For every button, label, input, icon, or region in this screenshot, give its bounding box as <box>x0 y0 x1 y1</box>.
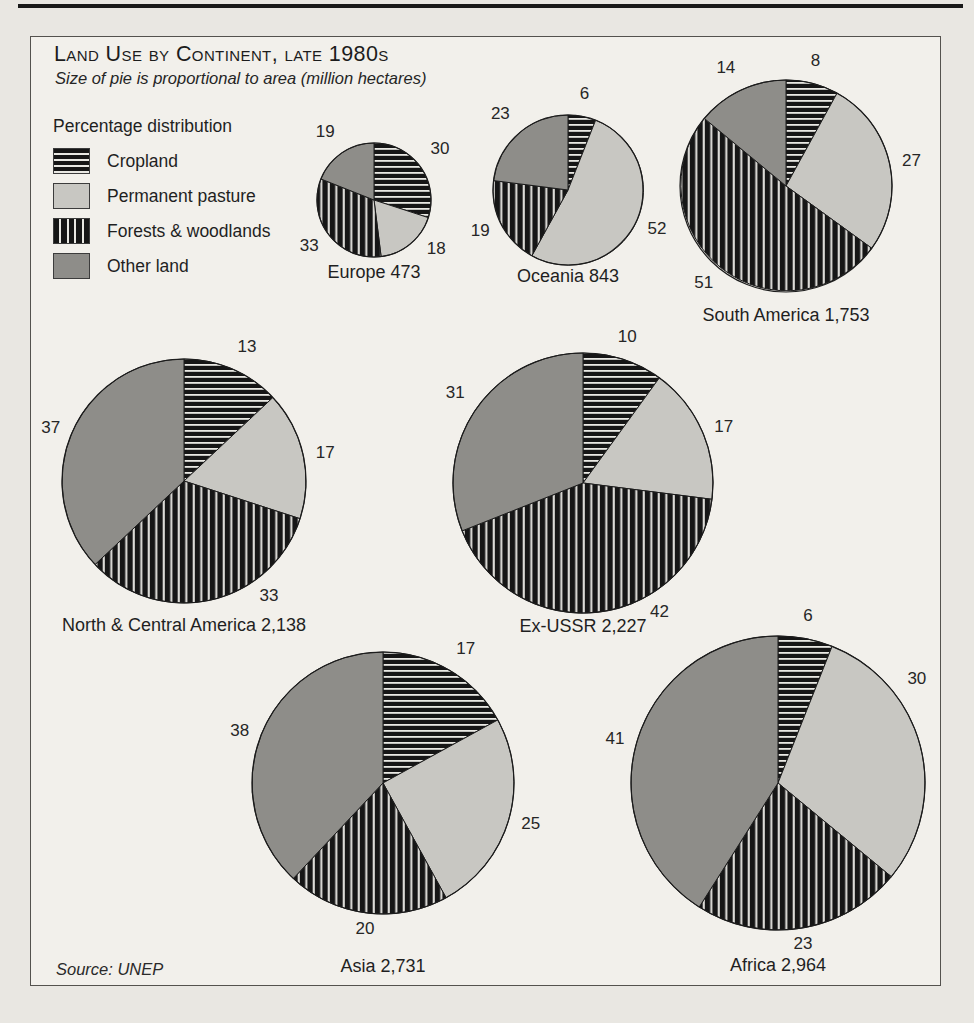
slice-value-ex-ussr-permanent-pasture: 17 <box>714 417 733 436</box>
pie-caption-south-america: South America 1,753 <box>702 305 869 325</box>
slice-value-asia-forests-woodlands: 20 <box>356 919 375 938</box>
pie-ex-ussr: 10174231Ex-USSR 2,227 <box>446 327 733 636</box>
pie-caption-africa: Africa 2,964 <box>730 955 826 975</box>
slice-value-africa-forests-woodlands: 23 <box>794 934 813 953</box>
slice-value-ex-ussr-forests-woodlands: 42 <box>650 602 669 621</box>
slice-value-africa-other-land: 41 <box>605 729 624 748</box>
slice-value-oceania-permanent-pasture: 52 <box>648 219 667 238</box>
slice-value-north-central-america-permanent-pasture: 17 <box>316 443 335 462</box>
slice-value-europe-permanent-pasture: 18 <box>427 239 446 258</box>
cropland-swatch <box>53 148 90 174</box>
pie-oceania: 6521923Oceania 843 <box>471 84 667 286</box>
slice-value-oceania-cropland: 6 <box>580 84 589 103</box>
chart-title: Land Use by Continent, late 1980s <box>54 42 389 67</box>
slice-value-asia-cropland: 17 <box>456 639 475 658</box>
pie-caption-asia: Asia 2,731 <box>340 956 425 976</box>
legend-item-cropland: Cropland <box>53 148 270 174</box>
slice-value-ex-ussr-cropland: 10 <box>618 327 637 346</box>
slice-value-south-america-forests-woodlands: 51 <box>694 273 713 292</box>
pie-caption-oceania: Oceania 843 <box>517 266 619 286</box>
slice-value-europe-other-land: 19 <box>316 122 335 141</box>
legend-title: Percentage distribution <box>53 116 270 137</box>
pie-south-america: 8275114South America 1,753 <box>680 51 921 325</box>
pie-caption-north-central-america: North & Central America 2,138 <box>62 615 306 635</box>
slice-value-africa-permanent-pasture: 30 <box>907 669 926 688</box>
slice-oceania-other-land <box>494 115 568 190</box>
pie-caption-europe: Europe 473 <box>327 262 420 282</box>
slice-value-europe-forests-woodlands: 33 <box>300 236 319 255</box>
slice-value-north-central-america-other-land: 37 <box>41 418 60 437</box>
pie-north-central-america: 13173337North & Central America 2,138 <box>41 337 334 635</box>
legend-item-other: Other land <box>53 253 270 279</box>
slice-value-europe-cropland: 30 <box>431 139 450 158</box>
slice-value-africa-cropland: 6 <box>803 606 812 625</box>
pie-caption-ex-ussr: Ex-USSR 2,227 <box>519 616 646 636</box>
source-note: Source: UNEP <box>56 960 163 979</box>
slice-value-asia-other-land: 38 <box>230 721 249 740</box>
pie-europe: 30183319Europe 473 <box>300 122 450 282</box>
other-swatch <box>53 253 90 279</box>
slice-value-south-america-other-land: 14 <box>716 58 735 77</box>
slice-value-north-central-america-cropland: 13 <box>238 337 257 356</box>
slice-value-south-america-permanent-pasture: 27 <box>902 151 921 170</box>
slice-value-north-central-america-forests-woodlands: 33 <box>260 586 279 605</box>
chart-subtitle: Size of pie is proportional to area (mil… <box>55 69 426 88</box>
pie-africa: 6302341Africa 2,964 <box>605 606 926 975</box>
legend-label-forests: Forests & woodlands <box>107 221 270 242</box>
pie-asia: 17252038Asia 2,731 <box>230 639 540 976</box>
pasture-swatch <box>53 183 90 209</box>
legend-label-pasture: Permanent pasture <box>107 186 256 207</box>
slice-value-south-america-cropland: 8 <box>811 51 820 70</box>
legend-items: CroplandPermanent pastureForests & woodl… <box>53 148 270 279</box>
legend: Percentage distribution CroplandPermanen… <box>53 116 270 288</box>
slice-value-ex-ussr-other-land: 31 <box>446 383 465 402</box>
legend-label-cropland: Cropland <box>107 151 178 172</box>
legend-label-other: Other land <box>107 256 189 277</box>
legend-item-pasture: Permanent pasture <box>53 183 270 209</box>
slice-value-oceania-forests-woodlands: 19 <box>471 221 490 240</box>
forests-swatch <box>53 218 90 244</box>
legend-item-forests: Forests & woodlands <box>53 218 270 244</box>
slice-value-oceania-other-land: 23 <box>491 104 510 123</box>
slice-value-asia-permanent-pasture: 25 <box>521 814 540 833</box>
